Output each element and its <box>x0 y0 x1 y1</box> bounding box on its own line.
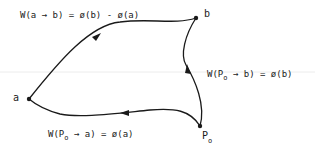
label-b: b <box>204 8 210 19</box>
point-p0 <box>198 124 202 128</box>
label-p0: Po <box>202 130 212 145</box>
path-diagram: a b Po W(a → b) = ø(b) - ø(a) W(Po → b) … <box>0 0 315 152</box>
point-a <box>27 97 31 101</box>
label-a: a <box>13 92 19 103</box>
path-a-to-b <box>29 18 196 99</box>
equation-p0-to-b: W(Po → b) = ø(b) <box>207 69 293 82</box>
equation-p0-to-a: W(Po → a) = ø(a) <box>48 129 134 142</box>
path-p0-to-a <box>29 99 200 126</box>
point-b <box>194 16 198 20</box>
arrow-a-to-b-icon <box>92 33 101 41</box>
equation-a-to-b: W(a → b) = ø(b) - ø(a) <box>20 10 139 20</box>
arrow-p0-to-a-icon <box>120 110 129 116</box>
